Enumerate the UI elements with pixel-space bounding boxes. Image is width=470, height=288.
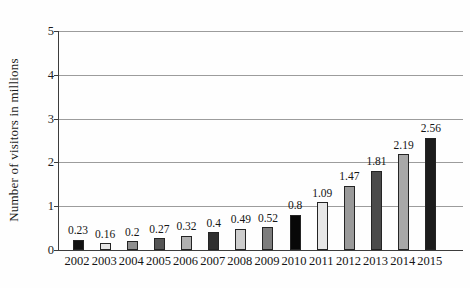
bar-chart: Number of visitors in millions 012345 0.…: [0, 0, 470, 288]
gridline-y4: [59, 75, 463, 76]
y-tick-label: 2: [36, 156, 54, 169]
bar-2012: [344, 186, 355, 250]
bar-2008: [235, 229, 246, 250]
gridline-y3: [59, 119, 463, 120]
y-tick-mark: [54, 31, 59, 32]
x-tick-label-2015: 2015: [413, 255, 447, 268]
bar-value-label: 1.81: [360, 156, 394, 168]
y-tick-mark: [54, 162, 59, 163]
y-tick-mark: [54, 206, 59, 207]
bar-2004: [127, 241, 138, 250]
y-tick-mark: [54, 250, 59, 251]
bar-value-label: 2.56: [414, 123, 448, 135]
bar-value-label: 0.8: [278, 200, 312, 212]
bar-2003: [100, 243, 111, 250]
y-axis-title: Number of visitors in millions: [6, 58, 22, 221]
bar-2014: [398, 154, 409, 250]
y-tick-label: 5: [36, 25, 54, 38]
bar-2005: [154, 238, 165, 250]
bar-2002: [73, 240, 84, 250]
bar-2013: [371, 171, 382, 250]
bar-2011: [317, 202, 328, 250]
bar-2009: [262, 227, 273, 250]
bar-value-label: 1.09: [305, 188, 339, 200]
y-tick-mark: [54, 119, 59, 120]
plot-area: 0.230.160.20.270.320.40.490.520.81.091.4…: [58, 31, 463, 251]
y-tick-label: 3: [36, 113, 54, 126]
bar-value-label: 0.52: [251, 213, 285, 225]
y-tick-label: 4: [36, 69, 54, 82]
bar-2007: [208, 232, 219, 250]
y-tick-label: 0: [36, 244, 54, 257]
bar-value-label: 2.19: [387, 140, 421, 152]
bar-value-label: 1.47: [332, 171, 366, 183]
y-tick-label: 1: [36, 200, 54, 213]
y-tick-mark: [54, 75, 59, 76]
bar-2006: [181, 236, 192, 250]
gridline-y5: [59, 31, 463, 32]
bar-2015: [425, 138, 436, 250]
bar-2010: [290, 215, 301, 250]
